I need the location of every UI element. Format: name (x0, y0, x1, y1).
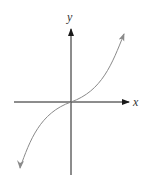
cubic-graph-diagram: y x (0, 0, 153, 184)
cubic-curve (20, 34, 124, 168)
y-axis-label: y (66, 10, 73, 24)
x-axis-label: x (132, 95, 139, 109)
graph-svg: y x (0, 0, 153, 184)
